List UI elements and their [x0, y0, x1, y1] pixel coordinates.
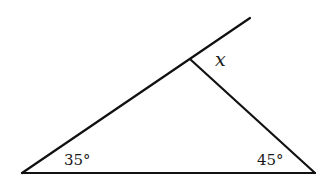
right-side	[191, 60, 315, 173]
triangle-diagram: 35° 45° x	[0, 0, 326, 190]
right-angle-label: 45°	[257, 151, 284, 169]
left-angle-label: 35°	[64, 151, 91, 169]
exterior-angle-label: x	[215, 48, 226, 70]
left-side-extended	[22, 18, 250, 173]
